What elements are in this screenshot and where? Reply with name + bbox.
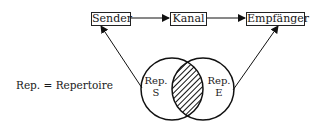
kanal-box: Kanal <box>170 12 207 26</box>
sender-label: Sender <box>92 12 132 25</box>
kanal-label: Kanal <box>173 12 205 25</box>
rep-s-line1: Rep. <box>141 75 171 87</box>
arrow-repe-empfaenger <box>233 26 278 90</box>
rep-e-label: Rep. E <box>204 75 234 99</box>
rep-s-label: Rep. S <box>141 75 171 99</box>
rep-s-line2: S <box>141 87 171 99</box>
empfaenger-box: Empfänger <box>246 12 305 26</box>
rep-e-line1: Rep. <box>204 75 234 87</box>
legend-text: Rep. = Repertoire <box>16 79 113 91</box>
rep-e-line2: E <box>204 87 234 99</box>
empfaenger-label: Empfänger <box>247 12 309 25</box>
sender-box: Sender <box>91 12 131 26</box>
